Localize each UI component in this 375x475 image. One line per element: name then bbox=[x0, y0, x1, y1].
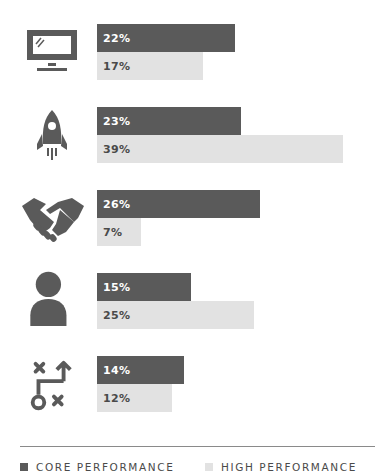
bar-core-people: 15% bbox=[97, 273, 191, 301]
legend-swatch-high bbox=[205, 463, 213, 471]
strategy-play-icon bbox=[24, 358, 80, 414]
bar-core-technology: 22% bbox=[97, 24, 235, 52]
legend-swatch-core bbox=[20, 463, 28, 471]
bar-core-strategy: 14% bbox=[97, 356, 184, 384]
legend-label-core: CORE PERFORMANCE bbox=[36, 461, 174, 473]
bar-high-strategy: 12% bbox=[97, 384, 172, 412]
legend-item-high: HIGH PERFORMANCE bbox=[205, 461, 357, 473]
person-icon bbox=[24, 270, 80, 326]
bar-high-innovation: 39% bbox=[97, 135, 343, 163]
bar-high-partnership: 7% bbox=[97, 218, 141, 246]
legend-item-core: CORE PERFORMANCE bbox=[20, 461, 174, 473]
legend-label-high: HIGH PERFORMANCE bbox=[221, 461, 357, 473]
bar-high-people: 25% bbox=[97, 301, 254, 329]
rocket-icon bbox=[24, 108, 80, 164]
bar-core-partnership: 26% bbox=[97, 190, 260, 218]
monitor-icon bbox=[24, 24, 80, 80]
bar-high-technology: 17% bbox=[97, 52, 203, 80]
handshake-icon bbox=[20, 190, 86, 246]
legend-divider bbox=[20, 446, 375, 447]
bar-core-innovation: 23% bbox=[97, 107, 241, 135]
